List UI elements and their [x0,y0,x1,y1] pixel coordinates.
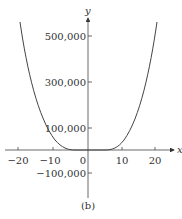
y-axis-label: y [84,5,91,16]
y-tick-label: 100,000 [45,123,86,134]
y-tick-label: −100,000 [36,168,86,179]
figure-caption: (b) [81,200,95,211]
x-axis-label: x [177,144,182,155]
y-tick-label: 500,000 [45,31,86,42]
x-tick-label: 10 [116,155,129,166]
x-tick-label: 20 [149,155,162,166]
y-tick-label: 300,000 [45,77,86,88]
x-tick-label: −20 [7,155,28,166]
chart: −20 −10 0 10 20 500,000 300,000 100,000 … [0,0,182,219]
x-tick-label: 0 [80,155,86,166]
x-tick-label: −10 [39,155,60,166]
y-ticks [88,36,92,173]
function-curve [20,22,157,150]
